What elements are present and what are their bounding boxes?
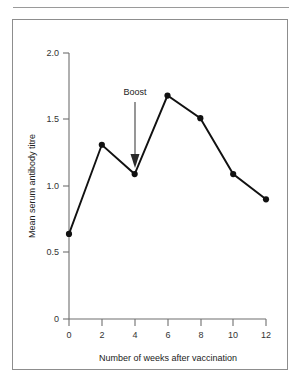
line-chart: 2.0 1.5 1.0 0.5 0 0 2 4 6 8 10 12 Boost <box>13 20 287 369</box>
y-tick-label-1: 1.0 <box>46 181 59 191</box>
x-tick-label-0: 0 <box>66 330 71 340</box>
boost-label: Boost <box>123 87 147 97</box>
y-axis-title: Mean serum antibody titre <box>27 134 37 238</box>
data-point <box>132 171 138 177</box>
x-tick-label-2: 2 <box>99 330 104 340</box>
data-point <box>197 115 203 121</box>
x-tick-label-10: 10 <box>228 330 238 340</box>
top-divider-rule <box>13 7 289 8</box>
x-tick-label-8: 8 <box>198 330 203 340</box>
x-tick-label-4: 4 <box>132 330 137 340</box>
series-line <box>69 96 266 234</box>
figure-frame: 2.0 1.5 1.0 0.5 0 0 2 4 6 8 10 12 Boost <box>12 19 288 370</box>
x-axis-title: Number of weeks after vaccination <box>99 353 237 363</box>
data-point <box>263 196 269 202</box>
series-markers <box>66 92 269 237</box>
x-axis-ticks <box>69 319 266 326</box>
y-tick-label-1.5: 1.5 <box>46 114 59 124</box>
data-point <box>230 171 236 177</box>
y-axis-ticks <box>63 53 69 319</box>
x-tick-label-12: 12 <box>261 330 271 340</box>
data-point <box>66 231 72 237</box>
x-tick-label-6: 6 <box>165 330 170 340</box>
y-tick-label-0: 0 <box>54 314 59 324</box>
data-point <box>99 142 105 148</box>
data-point <box>164 92 170 98</box>
boost-annotation: Boost <box>123 87 147 168</box>
y-tick-label-0.5: 0.5 <box>46 247 59 257</box>
y-tick-label-2: 2.0 <box>46 48 59 58</box>
